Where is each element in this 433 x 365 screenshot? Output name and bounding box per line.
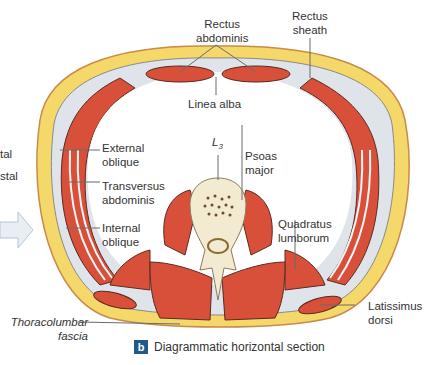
label-transversus-abdominis: Transversusabdominis bbox=[102, 180, 165, 207]
label-internal-oblique: Internaloblique bbox=[102, 222, 140, 249]
label-rectus-sheath: Rectussheath bbox=[292, 10, 328, 37]
label-latissimus-dorsi: Latissimusdorsi bbox=[368, 300, 422, 327]
label-quadratus-lumborum: Quadratuslumborum bbox=[278, 218, 332, 245]
label-external-oblique: Externaloblique bbox=[102, 142, 144, 169]
partial-label-2: stal bbox=[0, 170, 18, 184]
pointer-arrow-icon bbox=[0, 212, 33, 248]
spinal-canal bbox=[208, 239, 228, 253]
label-psoas-major: Psoasmajor bbox=[245, 150, 277, 177]
rectus-abdominis-left bbox=[146, 66, 214, 82]
rectus-abdominis-right bbox=[222, 66, 290, 82]
figure-caption: b Diagrammatic horizontal section bbox=[134, 340, 325, 354]
label-thoracolumbar-fascia: Thoracolumbarfascia bbox=[8, 316, 88, 343]
panel-letter-badge: b bbox=[134, 340, 148, 354]
partial-label-1: tal bbox=[0, 148, 12, 162]
label-l3: L3 bbox=[212, 136, 223, 154]
caption-text: Diagrammatic horizontal section bbox=[154, 340, 325, 354]
label-rectus-abdominis: Rectusabdominis bbox=[196, 18, 248, 45]
label-linea-alba: Linea alba bbox=[188, 98, 241, 112]
